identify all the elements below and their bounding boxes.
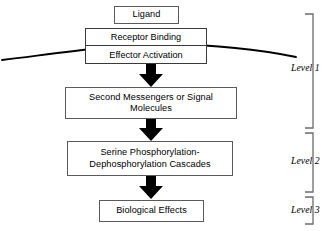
node-receptor-binding-label: Receptor Binding <box>111 32 181 42</box>
level-1-label: Level 1 <box>291 62 320 73</box>
level-brackets <box>290 0 333 231</box>
node-second-messengers[interactable]: Second Messengers or Signal Molecules <box>65 87 237 119</box>
node-effector-activation[interactable]: Effector Activation <box>86 46 206 63</box>
node-serine-cascades-label: Serine Phosphorylation- Dephosphorylatio… <box>86 147 213 170</box>
level-3-label: Level 3 <box>291 204 320 215</box>
node-biological-effects[interactable]: Biological Effects <box>99 200 204 222</box>
node-serine-cascades[interactable]: Serine Phosphorylation- Dephosphorylatio… <box>67 141 233 176</box>
level-2-label: Level 2 <box>291 155 320 166</box>
arrow-down-1 <box>138 64 164 88</box>
node-ligand[interactable]: Ligand <box>114 6 179 24</box>
node-effector-activation-label: Effector Activation <box>109 50 182 60</box>
arrow-down-3 <box>138 176 164 200</box>
node-second-messengers-label: Second Messengers or Signal Molecules <box>86 92 216 115</box>
node-biological-effects-label: Biological Effects <box>113 205 190 217</box>
node-receptor-binding[interactable]: Receptor Binding <box>86 29 206 46</box>
diagram-canvas: Ligand Receptor Binding Effector Activat… <box>0 0 333 231</box>
node-receptor-complex[interactable]: Receptor Binding Effector Activation <box>85 28 207 64</box>
arrow-down-2 <box>138 119 164 142</box>
node-ligand-label: Ligand <box>130 9 164 21</box>
